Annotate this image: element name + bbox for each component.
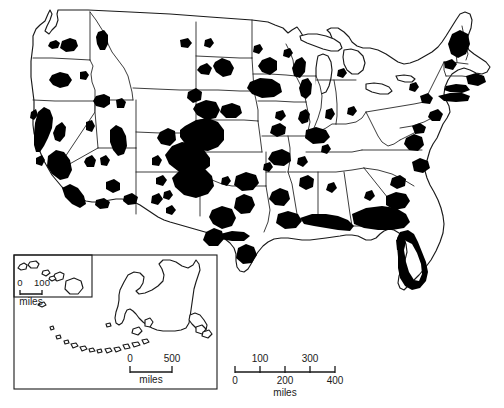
map-figure: 0 100 miles 0 500 miles 100 300 0 200 40… [0,0,504,408]
alaska-mainland [115,260,200,331]
main-scale-line [235,366,335,373]
aleutian-island-9 [123,344,130,349]
aleutian-island-12 [106,323,111,327]
main-scale-unit: miles [273,387,296,398]
aleutian-island-7 [105,348,112,353]
hawaii-oahu [28,261,39,268]
us-distribution-map: 0 100 miles 0 500 miles 100 300 0 200 40… [0,0,504,408]
aleutian-island-8 [114,347,121,352]
aleutian-island-10 [132,342,140,347]
alaska-outline-group [38,260,212,338]
hawaii-islands-group [18,261,83,294]
main-scale-tick-0: 0 [232,375,238,386]
aleutian-island-4 [80,346,87,351]
hawaii-molokai [42,270,50,276]
alaska-scale-unit: miles [139,374,162,385]
hawaii-scale-tick-0: 0 [17,277,22,288]
hawaii-scale-unit: miles [19,296,42,307]
alaska-scale-bar: 0 500 miles [127,353,181,385]
hawaii-kauai [18,263,27,270]
patch-ma-cape [466,73,486,86]
alaska-scale-tick-500: 500 [164,353,181,364]
main-scale-tick-100: 100 [252,353,269,364]
hawaii-big-island [65,278,83,294]
aleutian-islands-group [56,323,149,353]
aleutian-island-3 [71,343,78,348]
alaska-kodiak [132,327,142,335]
aleutian-island-1 [56,335,61,339]
hawaii-scale-line [20,290,42,295]
main-scale-bar: 100 300 0 200 400 miles [232,353,344,398]
main-scale-tick-300: 300 [302,353,319,364]
hawaii-scale-bar: 0 100 miles [17,277,50,307]
aleutian-island-2 [64,340,69,344]
aleutian-island-6 [97,349,102,353]
patch-ct-ri-coast [444,84,470,93]
main-scale-tick-200: 200 [277,375,294,386]
main-scale-tick-400: 400 [327,375,344,386]
aleutian-island-11 [142,339,149,344]
alaska-scale-tick-0: 0 [127,353,133,364]
aleutian-island-5 [89,348,95,352]
hawaii-scale-tick-100: 100 [34,277,50,288]
alaska-pribilof [50,326,54,330]
alaska-scale-line [130,366,172,373]
hawaii-lanai [49,276,56,281]
